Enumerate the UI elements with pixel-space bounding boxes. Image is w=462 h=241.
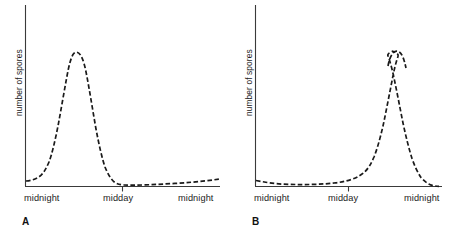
chart-b-xtick-label-midnight-start: midnight xyxy=(254,193,290,203)
chart-panel-b: number of spores midnight midday midnigh… xyxy=(231,0,462,241)
chart-a-y-axis-label: number of spores xyxy=(14,49,24,116)
chart-b-xtick-label-midday: midday xyxy=(328,193,358,203)
chart-b-series-line xyxy=(256,51,439,186)
chart-a-xtick-label-midnight-start: midnight xyxy=(24,193,60,203)
figure-two-spore-release-charts: number of spores midnight midday midnigh… xyxy=(0,0,462,241)
chart-b-series-peak xyxy=(388,51,406,68)
chart-panel-a: number of spores midnight midday midnigh… xyxy=(0,0,231,241)
chart-b-panel-letter: B xyxy=(252,216,259,227)
chart-a-plot xyxy=(0,0,231,241)
chart-a-panel-letter: A xyxy=(22,216,29,227)
chart-b-xtick-label-midnight-end: midnight xyxy=(404,193,440,203)
chart-b-y-axis-label: number of spores xyxy=(244,49,254,116)
chart-a-series-line xyxy=(26,52,219,185)
chart-a-xtick-label-midday: midday xyxy=(103,193,133,203)
chart-b-plot xyxy=(231,0,462,241)
chart-a-xtick-label-midnight-end: midnight xyxy=(178,193,214,203)
